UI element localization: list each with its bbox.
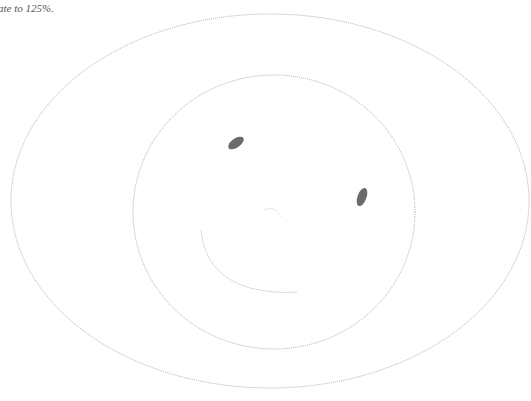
right-eye bbox=[355, 187, 370, 208]
smiley-drawing bbox=[0, 0, 531, 401]
left-eye bbox=[226, 134, 246, 152]
mouth-arc bbox=[201, 230, 297, 293]
face-circle bbox=[133, 75, 415, 349]
outer-ellipse bbox=[11, 14, 529, 388]
nose-arc bbox=[264, 209, 281, 217]
